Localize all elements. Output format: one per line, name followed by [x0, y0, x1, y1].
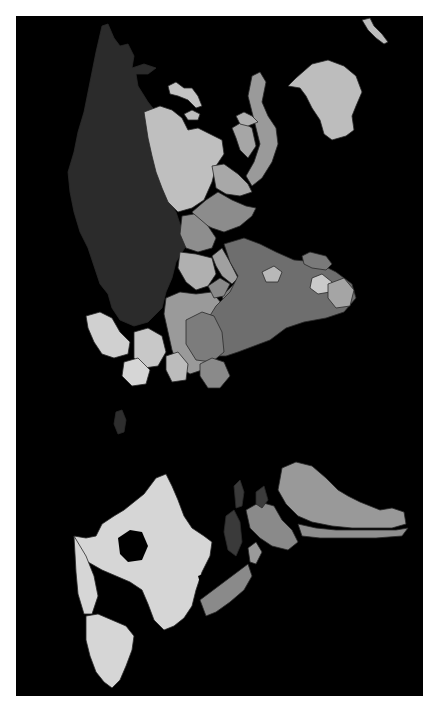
region-brazil[interactable]: [278, 462, 406, 528]
region-usa[interactable]: [86, 614, 134, 688]
region-andes-west[interactable]: [246, 502, 298, 550]
map-frame: [16, 16, 423, 696]
region-arctic-islands[interactable]: [224, 510, 242, 556]
region-middle-east[interactable]: [212, 164, 252, 196]
region-new-zealand[interactable]: [362, 18, 388, 44]
region-indonesia-small[interactable]: [232, 122, 256, 158]
region-west-africa[interactable]: [200, 358, 230, 388]
region-australia[interactable]: [288, 60, 362, 140]
region-central-america[interactable]: [248, 542, 262, 564]
region-scandinavia-islands[interactable]: [168, 82, 202, 108]
region-iceland[interactable]: [114, 410, 126, 434]
world-map: [16, 16, 423, 696]
region-iceland-uk[interactable]: [184, 110, 200, 120]
region-caribbean[interactable]: [234, 480, 244, 508]
